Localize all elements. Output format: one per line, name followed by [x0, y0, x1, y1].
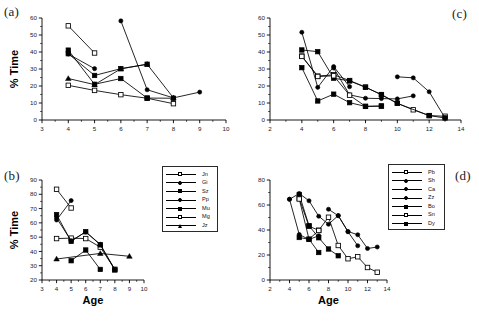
legend-line-Bo: [392, 206, 422, 207]
legend-item-Ca[interactable]: Ca: [392, 185, 441, 194]
legend-marker-open-square: [404, 213, 408, 217]
legend-line-Sz: [166, 191, 196, 192]
legend-label-Sz: Sz: [202, 189, 209, 195]
series-Mu: [69, 248, 103, 272]
svg-text:10: 10: [394, 125, 401, 132]
y-axis-title: % Time: [8, 50, 20, 88]
svg-text:80: 80: [258, 176, 265, 183]
legend-line-Pp: [166, 200, 196, 201]
series-Ca: [326, 207, 379, 250]
svg-text:20: 20: [30, 276, 37, 283]
svg-text:4: 4: [288, 285, 292, 292]
svg-text:7: 7: [99, 285, 103, 292]
legend-item-Jz[interactable]: Jz: [166, 222, 214, 231]
legend-line-Dy: [392, 223, 422, 224]
legend-item-Sn[interactable]: Sn: [392, 211, 441, 220]
legend-label-Pp: Pp: [202, 197, 209, 203]
svg-text:10: 10: [258, 99, 265, 106]
svg-text:50: 50: [30, 31, 37, 38]
legend-item-Zz[interactable]: Zz: [392, 194, 441, 203]
panel-c-plot: 01020304050602468101214: [240, 8, 479, 148]
series-Zz: [332, 66, 416, 101]
legend-item-Mg[interactable]: Mg: [166, 213, 214, 222]
legend-right: PbShCaZzBoSnDy: [388, 164, 445, 230]
legend-marker-closed-square: [178, 207, 182, 211]
series-Bo: [300, 48, 448, 120]
svg-text:20: 20: [258, 251, 265, 258]
svg-text:5: 5: [93, 125, 97, 132]
legend-marker-closed-circle: [404, 196, 408, 200]
legend-label-Pb: Pb: [428, 170, 435, 176]
svg-text:2: 2: [268, 285, 272, 292]
legend-marker-closed-square: [404, 205, 408, 209]
legend-marker-open-square: [178, 215, 182, 219]
figure-root: (a) 0102030405060345678910% Time (b) 203…: [0, 0, 479, 323]
series-Dy: [300, 65, 384, 108]
legend-label-Bo: Bo: [428, 204, 435, 210]
legend-label-Gi: Gi: [202, 180, 208, 186]
svg-text:9: 9: [128, 285, 132, 292]
legend-left: JnGiSzPpMuMgJz: [162, 166, 218, 232]
svg-text:50: 50: [258, 31, 265, 38]
svg-text:10: 10: [223, 125, 230, 132]
legend-item-Pp[interactable]: Pp: [166, 196, 214, 205]
legend-marker-closed-square: [404, 222, 408, 226]
legend-item-Mu[interactable]: Mu: [166, 204, 214, 213]
series-Bo: [297, 192, 340, 258]
series-Pb: [300, 54, 448, 119]
svg-text:30: 30: [30, 65, 37, 72]
legend-line-Mg: [166, 217, 196, 218]
legend-item-Dy[interactable]: Dy: [392, 220, 441, 229]
legend-item-Pb[interactable]: Pb: [392, 168, 441, 177]
series-Mu: [66, 51, 149, 77]
legend-line-Ca: [392, 189, 422, 190]
svg-text:40: 40: [30, 48, 37, 55]
svg-text:14: 14: [458, 125, 465, 132]
legend-marker-closed-triangle: [178, 224, 182, 228]
legend-item-Jn[interactable]: Jn: [166, 170, 214, 179]
svg-text:6: 6: [307, 285, 311, 292]
legend-label-Jn: Jn: [202, 172, 208, 178]
legend-label-Mg: Mg: [202, 214, 210, 220]
legend-item-Bo[interactable]: Bo: [392, 202, 441, 211]
svg-text:20: 20: [258, 82, 265, 89]
legend-label-Sn: Sn: [428, 212, 435, 218]
legend-item-Sz[interactable]: Sz: [166, 187, 214, 196]
series-Pp: [55, 216, 117, 272]
svg-text:8: 8: [364, 125, 368, 132]
series-Pb: [297, 196, 379, 274]
svg-text:3: 3: [40, 125, 44, 132]
y-axis-title: % Time: [8, 211, 20, 249]
svg-text:8: 8: [327, 285, 331, 292]
legend-label-Ca: Ca: [428, 187, 435, 193]
svg-text:6: 6: [332, 125, 336, 132]
legend-marker-open-square: [178, 172, 182, 176]
legend-marker-closed-circle: [404, 187, 408, 191]
legend-line-Sn: [392, 215, 422, 216]
legend-label-Jz: Jz: [202, 223, 208, 229]
legend-item-Gi[interactable]: Gi: [166, 179, 214, 188]
svg-text:5: 5: [69, 285, 73, 292]
svg-text:0: 0: [262, 116, 266, 123]
svg-text:14: 14: [384, 285, 391, 292]
legend-line-Sh: [392, 180, 422, 181]
svg-text:4: 4: [67, 125, 71, 132]
legend-label-Dy: Dy: [428, 221, 435, 227]
svg-text:3: 3: [40, 285, 44, 292]
legend-label-Zz: Zz: [428, 195, 434, 201]
svg-text:60: 60: [30, 14, 37, 21]
legend-line-Pb: [392, 172, 422, 173]
svg-text:8: 8: [172, 125, 176, 132]
svg-text:90: 90: [30, 176, 37, 183]
svg-text:10: 10: [345, 285, 352, 292]
svg-text:60: 60: [258, 14, 265, 21]
legend-marker-closed-square: [178, 189, 182, 193]
svg-text:70: 70: [30, 205, 37, 212]
legend-line-Mu: [166, 208, 196, 209]
legend-item-Sh[interactable]: Sh: [392, 177, 441, 186]
x-axis-title: Age: [318, 294, 339, 306]
svg-text:30: 30: [30, 262, 37, 269]
svg-text:12: 12: [364, 285, 371, 292]
legend-marker-closed-circle: [404, 179, 408, 183]
svg-text:50: 50: [30, 233, 37, 240]
